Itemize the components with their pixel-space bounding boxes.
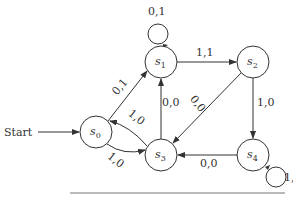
edge-label-s0-s3: 1,0	[105, 150, 127, 171]
edge-label-s1-s1: 0,1	[148, 5, 166, 18]
edge-label-s3-s0: 1,0	[126, 107, 148, 128]
self-loop-s1	[148, 24, 168, 44]
edge-label-s0-s1: 0,1	[109, 76, 130, 98]
state-s2: s2	[237, 46, 269, 78]
self-loop-s4	[266, 167, 286, 187]
edge-label-s2-s4: 1,0	[257, 96, 275, 109]
state-s3: s3	[145, 139, 177, 171]
edge-label-s3-s1: 0,0	[162, 96, 180, 109]
edge-label-s1-s2: 1,1	[196, 46, 214, 59]
edge-label-s2-s3: 0,0	[187, 93, 208, 115]
state-s1: s1	[145, 46, 177, 78]
state-s4: s4	[237, 139, 269, 171]
edge-label-s4-s3: 0,0	[200, 157, 218, 170]
edge-label-s4-s4: 1,	[284, 171, 293, 184]
state-diagram: Start 0,1 0,1 1,1 0,0 1,0 0,0 1,0 1,0 0,…	[0, 0, 293, 203]
start-label: Start	[4, 126, 33, 139]
edge-s2-s3	[173, 73, 241, 143]
state-s0: s0	[80, 116, 112, 148]
